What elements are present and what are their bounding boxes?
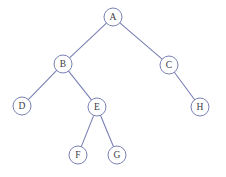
- tree-node-d[interactable]: D: [13, 97, 31, 115]
- node-label-a: A: [110, 12, 117, 22]
- tree-node-h[interactable]: H: [191, 98, 209, 116]
- tree-edge-b-e: [69, 71, 92, 100]
- tree-node-c[interactable]: C: [160, 56, 178, 74]
- tree-edge-a-c: [120, 23, 162, 59]
- tree-edge-e-g: [100, 115, 113, 146]
- node-label-g: G: [114, 150, 121, 160]
- node-label-f: F: [75, 150, 80, 160]
- tree-edge-c-h: [174, 72, 194, 100]
- tree-node-f[interactable]: F: [69, 146, 87, 164]
- edge-layer: [28, 23, 194, 147]
- tree-node-a[interactable]: A: [104, 8, 122, 26]
- node-label-e: E: [94, 102, 100, 112]
- tree-node-b[interactable]: B: [54, 55, 72, 73]
- node-label-b: B: [60, 59, 66, 69]
- tree-edge-a-b: [70, 23, 107, 58]
- tree-canvas: ABCDEHFG: [0, 0, 226, 177]
- tree-node-g[interactable]: G: [108, 146, 126, 164]
- node-label-d: D: [19, 101, 26, 111]
- node-label-h: H: [197, 102, 204, 112]
- tree-edge-e-f: [81, 115, 93, 146]
- tree-edge-b-d: [28, 70, 56, 99]
- node-label-c: C: [166, 60, 172, 70]
- binary-tree-diagram: ABCDEHFG: [0, 0, 226, 177]
- tree-node-e[interactable]: E: [88, 98, 106, 116]
